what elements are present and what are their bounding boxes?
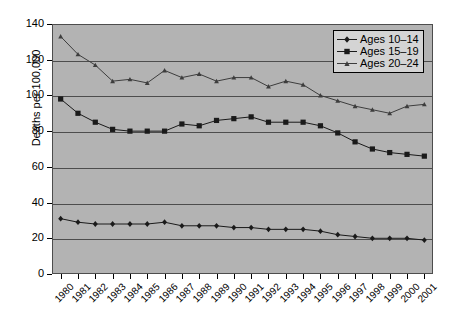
legend-item-ages-10-14: Ages 10–14 (337, 33, 419, 45)
x-axis-tick-mark (424, 274, 425, 279)
x-axis-tick-mark (407, 274, 408, 279)
x-axis-tick-mark (78, 274, 79, 279)
legend-key-diamond-icon (337, 34, 357, 45)
x-axis-tick-mark (165, 274, 166, 279)
x-axis-tick-mark (355, 274, 356, 279)
x-axis-tick-mark (217, 274, 218, 279)
y-axis-tick-label: 80 (16, 125, 44, 136)
x-axis-tick-mark (95, 274, 96, 279)
y-axis-tick-mark (47, 203, 52, 204)
y-axis-tick-mark (47, 238, 52, 239)
y-axis-tick-label: 100 (16, 89, 44, 100)
x-axis-tick-mark (303, 274, 304, 279)
y-axis-tick-mark (47, 167, 52, 168)
x-axis-tick-mark (199, 274, 200, 279)
x-axis-tick-mark (234, 274, 235, 279)
grid-line (53, 168, 432, 169)
legend-label: Ages 15–19 (360, 46, 419, 57)
y-axis-tick-label: 0 (16, 268, 44, 279)
x-axis-tick-mark (372, 274, 373, 279)
x-axis-tick-mark (182, 274, 183, 279)
y-axis-tick-label: 120 (16, 54, 44, 65)
legend-label: Ages 10–14 (360, 34, 419, 45)
x-axis-tick-mark (268, 274, 269, 279)
chart-figure: Deaths per 100,000 020406080100120140 19… (0, 0, 455, 326)
y-axis-tick-label: 20 (16, 232, 44, 243)
y-axis-tick-mark (47, 274, 52, 275)
legend-item-ages-20-24: Ages 20–24 (337, 57, 419, 69)
legend-item-ages-15-19: Ages 15–19 (337, 45, 419, 57)
x-axis-tick-mark (61, 274, 62, 279)
x-axis-tick-mark (390, 274, 391, 279)
y-axis-tick-label: 60 (16, 161, 44, 172)
y-axis-tick-label: 140 (16, 18, 44, 29)
x-axis-tick-mark (130, 274, 131, 279)
grid-line (53, 204, 432, 205)
chart-legend: Ages 10–14 Ages 15–19 Ages 20–24 (333, 30, 424, 73)
x-axis-tick-mark (147, 274, 148, 279)
y-axis-tick-label: 40 (16, 197, 44, 208)
x-axis-tick-mark (113, 274, 114, 279)
legend-key-triangle-icon (337, 58, 357, 69)
legend-key-square-icon (337, 46, 357, 57)
x-axis-tick-mark (286, 274, 287, 279)
grid-line (53, 132, 432, 133)
y-axis-tick-mark (47, 60, 52, 61)
grid-line (53, 239, 432, 240)
x-axis-tick-mark (320, 274, 321, 279)
legend-label: Ages 20–24 (360, 58, 419, 69)
x-axis-tick-mark (338, 274, 339, 279)
x-axis-tick-mark (251, 274, 252, 279)
y-axis-tick-mark (47, 95, 52, 96)
grid-line (53, 96, 432, 97)
y-axis-tick-mark (47, 131, 52, 132)
y-axis-tick-mark (47, 24, 52, 25)
